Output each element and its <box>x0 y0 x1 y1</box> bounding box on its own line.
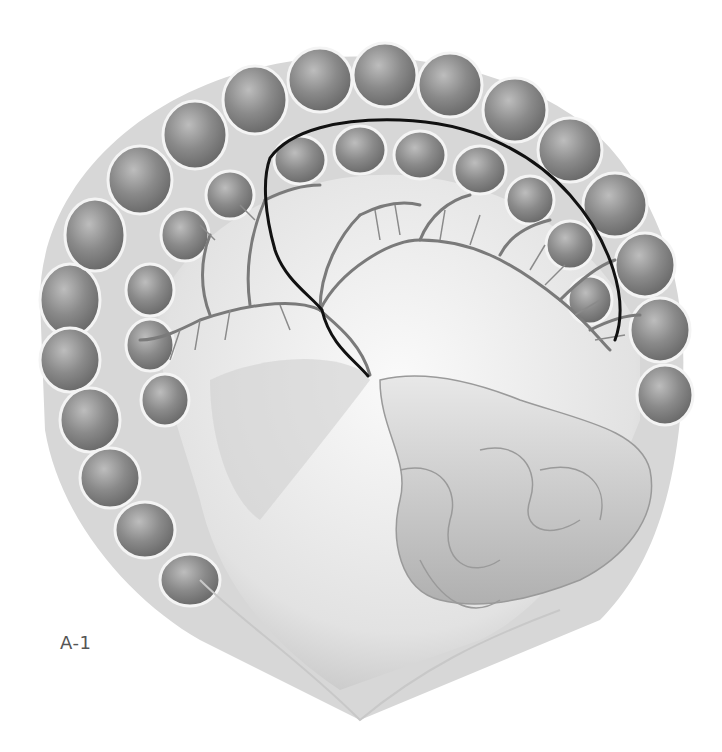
anatomical-illustration <box>0 0 722 752</box>
figure-label: A-1 <box>60 632 91 653</box>
